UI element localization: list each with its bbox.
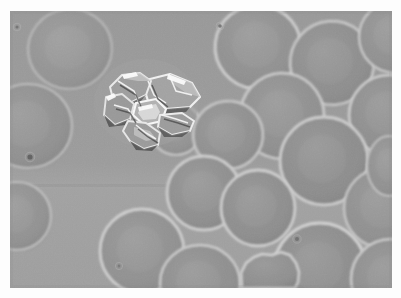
micrograph-figure: Phase-contrast micrograph of a blood sme… [0,0,401,298]
micrograph-image [10,11,392,288]
film-grain-overlay [10,11,392,288]
micrograph-canvas [10,11,392,288]
